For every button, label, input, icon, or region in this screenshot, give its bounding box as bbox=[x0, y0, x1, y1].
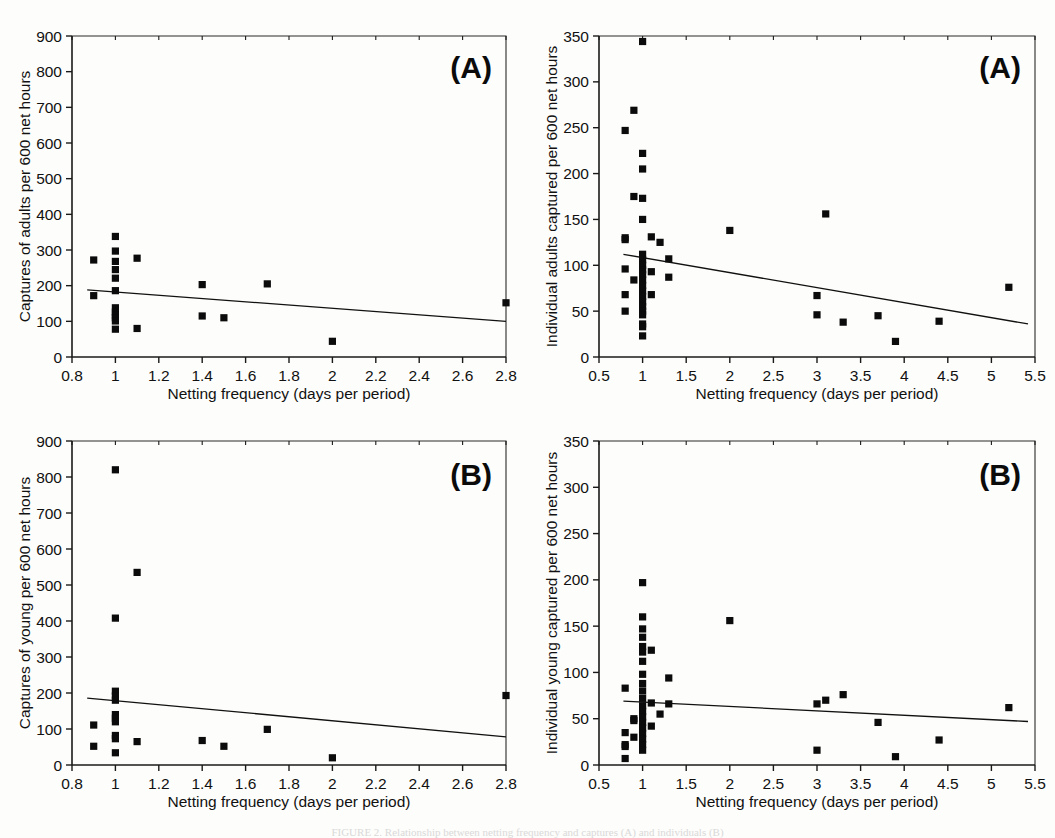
data-point bbox=[648, 647, 655, 654]
data-point bbox=[648, 268, 655, 275]
x-tick-label: 2.5 bbox=[763, 775, 785, 792]
panel-tag: (A) bbox=[979, 51, 1021, 84]
x-tick-label: 1 bbox=[638, 367, 647, 384]
data-point bbox=[622, 755, 629, 762]
panel-top-left: 01002003004005006007008009000.811.21.41.… bbox=[0, 0, 527, 415]
regression-line bbox=[623, 701, 1028, 721]
data-point bbox=[622, 291, 629, 298]
data-point bbox=[639, 671, 646, 678]
y-tick-label: 50 bbox=[572, 710, 590, 727]
scatter-plot-individual-adults: 0501001502002503003500.511.522.533.544.5… bbox=[527, 0, 1055, 415]
y-tick-label: 800 bbox=[36, 469, 62, 486]
data-point bbox=[892, 338, 899, 345]
data-point bbox=[112, 287, 119, 294]
data-point bbox=[622, 236, 629, 243]
x-tick-label: 5 bbox=[987, 367, 996, 384]
y-tick-label: 150 bbox=[563, 211, 589, 228]
y-tick-label: 400 bbox=[36, 206, 62, 223]
x-tick-label: 1.5 bbox=[675, 775, 697, 792]
y-tick-label: 500 bbox=[36, 577, 62, 594]
data-point bbox=[630, 193, 637, 200]
y-tick-label: 100 bbox=[563, 664, 589, 681]
data-point bbox=[874, 719, 881, 726]
y-tick-label: 200 bbox=[36, 277, 62, 294]
y-tick-label: 0 bbox=[53, 757, 62, 774]
data-point bbox=[648, 723, 655, 730]
x-tick-label: 4 bbox=[900, 367, 909, 384]
x-tick-label: 0.8 bbox=[61, 367, 83, 384]
x-axis-label: Netting frequency (days per period) bbox=[168, 793, 411, 810]
data-point bbox=[112, 275, 119, 282]
y-tick-label: 400 bbox=[36, 613, 62, 630]
data-point bbox=[502, 692, 509, 699]
panel-bottom-right: 0501001502002503003500.511.522.533.544.5… bbox=[527, 415, 1055, 838]
data-point bbox=[220, 314, 227, 321]
data-point bbox=[639, 747, 646, 754]
data-point bbox=[622, 685, 629, 692]
x-tick-label: 1.2 bbox=[148, 367, 170, 384]
x-tick-label: 1.8 bbox=[278, 775, 300, 792]
data-point bbox=[648, 291, 655, 298]
data-point bbox=[822, 697, 829, 704]
y-tick-label: 250 bbox=[563, 525, 589, 542]
x-axis-label: Netting frequency (days per period) bbox=[168, 385, 411, 402]
y-axis-label: Individual adults captured per 600 net h… bbox=[543, 45, 560, 347]
data-point bbox=[639, 311, 646, 318]
data-point bbox=[813, 747, 820, 754]
data-point bbox=[639, 216, 646, 223]
data-point bbox=[639, 150, 646, 157]
data-point bbox=[112, 697, 119, 704]
data-point bbox=[656, 239, 663, 246]
data-point bbox=[264, 280, 271, 287]
data-point bbox=[840, 319, 847, 326]
data-point bbox=[112, 247, 119, 254]
y-tick-label: 50 bbox=[572, 303, 590, 320]
y-tick-label: 800 bbox=[36, 63, 62, 80]
y-tick-label: 600 bbox=[36, 135, 62, 152]
y-tick-label: 350 bbox=[563, 433, 589, 450]
data-point bbox=[935, 736, 942, 743]
plot-frame bbox=[599, 441, 1035, 765]
plot-frame bbox=[599, 36, 1035, 357]
data-point bbox=[822, 210, 829, 217]
data-point bbox=[264, 726, 271, 733]
data-point bbox=[134, 255, 141, 262]
panel-tag: (B) bbox=[450, 458, 492, 491]
data-point bbox=[656, 710, 663, 717]
x-tick-label: 4.5 bbox=[937, 775, 959, 792]
data-point bbox=[892, 753, 899, 760]
panel-bottom-left: 01002003004005006007008009000.811.21.41.… bbox=[0, 415, 527, 838]
y-tick-label: 300 bbox=[36, 242, 62, 259]
y-tick-label: 100 bbox=[36, 721, 62, 738]
panel-tag: (B) bbox=[979, 458, 1021, 491]
data-point bbox=[665, 255, 672, 262]
data-point bbox=[813, 292, 820, 299]
data-point bbox=[199, 281, 206, 288]
data-point bbox=[639, 579, 646, 586]
x-tick-label: 3 bbox=[813, 367, 822, 384]
data-point bbox=[639, 165, 646, 172]
data-point bbox=[112, 466, 119, 473]
data-point bbox=[726, 617, 733, 624]
y-tick-label: 600 bbox=[36, 541, 62, 558]
data-point bbox=[622, 308, 629, 315]
data-point bbox=[639, 634, 646, 641]
data-point bbox=[90, 256, 97, 263]
y-tick-label: 300 bbox=[563, 73, 589, 90]
x-tick-label: 1 bbox=[111, 367, 120, 384]
x-tick-label: 2.4 bbox=[408, 367, 430, 384]
data-point bbox=[665, 674, 672, 681]
data-point bbox=[112, 718, 119, 725]
data-point bbox=[112, 266, 119, 273]
data-point bbox=[622, 265, 629, 272]
data-point bbox=[329, 338, 336, 345]
x-tick-label: 2 bbox=[725, 367, 734, 384]
data-point bbox=[665, 274, 672, 281]
data-point bbox=[90, 292, 97, 299]
x-tick-label: 1.5 bbox=[675, 367, 697, 384]
y-tick-label: 700 bbox=[36, 99, 62, 116]
x-tick-label: 1.4 bbox=[191, 367, 213, 384]
x-axis-label: Netting frequency (days per period) bbox=[696, 793, 939, 810]
data-point bbox=[112, 317, 119, 324]
x-tick-label: 4 bbox=[900, 775, 909, 792]
